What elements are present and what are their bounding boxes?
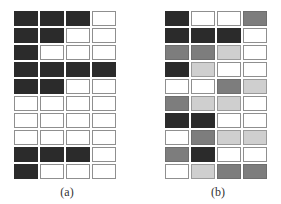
grid-cell (165, 147, 189, 162)
grid-cell (66, 164, 90, 179)
grid-cell (217, 62, 241, 77)
grid-cell (243, 147, 267, 162)
grid-cell (217, 113, 241, 128)
grid-cell (217, 28, 241, 43)
grid-cell (40, 164, 64, 179)
grid-cell (165, 164, 189, 179)
grid-cell (40, 113, 64, 128)
grid-cell (92, 96, 116, 111)
grid-cell (92, 11, 116, 26)
grid-cell (14, 130, 38, 145)
grid-cell (191, 62, 215, 77)
grid-cell (40, 79, 64, 94)
grid-cell (191, 113, 215, 128)
grid-cell (243, 79, 267, 94)
grid-cell (217, 147, 241, 162)
grid-cell (217, 130, 241, 145)
grid-cell (217, 96, 241, 111)
grid-cell (14, 96, 38, 111)
grid-cell (243, 62, 267, 77)
grid-cell (40, 28, 64, 43)
grid-cell (191, 11, 215, 26)
grid-cell (92, 164, 116, 179)
grid-cell (191, 28, 215, 43)
grid-cell (40, 96, 64, 111)
grid-cell (165, 96, 189, 111)
grid-cell (243, 96, 267, 111)
grid-cell (40, 11, 64, 26)
grid-cell (191, 79, 215, 94)
grid-cell (40, 45, 64, 60)
grid-cell (191, 45, 215, 60)
grid-cell (243, 113, 267, 128)
grid-cell (165, 130, 189, 145)
grid-cell (243, 130, 267, 145)
grid-cell (14, 28, 38, 43)
grid-cell (92, 62, 116, 77)
grid-cell (191, 96, 215, 111)
grid-cell (92, 113, 116, 128)
grid-cell (14, 113, 38, 128)
grid-cell (14, 147, 38, 162)
grid-cell (66, 28, 90, 43)
grid-cell (217, 11, 241, 26)
grid-cell (165, 113, 189, 128)
grid-cell (92, 147, 116, 162)
grid-cell (66, 113, 90, 128)
grid-cell (191, 164, 215, 179)
caption-a: (a) (47, 185, 87, 200)
grid-cell (92, 28, 116, 43)
grid-cell (66, 96, 90, 111)
grid-cell (92, 45, 116, 60)
grid-cell (217, 164, 241, 179)
grid-b (165, 11, 267, 179)
grid-cell (14, 45, 38, 60)
grid-a (14, 11, 116, 179)
grid-cell (165, 62, 189, 77)
grid-cell (165, 28, 189, 43)
grid-cell (66, 45, 90, 60)
grid-cell (14, 79, 38, 94)
grid-cell (191, 147, 215, 162)
grid-cell (243, 11, 267, 26)
grid-cell (165, 11, 189, 26)
grid-cell (165, 79, 189, 94)
grid-cell (191, 130, 215, 145)
grid-cell (217, 45, 241, 60)
grid-cell (66, 147, 90, 162)
grid-cell (243, 45, 267, 60)
grid-cell (243, 164, 267, 179)
grid-cell (92, 79, 116, 94)
grid-cell (40, 130, 64, 145)
grid-cell (66, 62, 90, 77)
grid-cell (40, 147, 64, 162)
grid-cell (14, 11, 38, 26)
grid-cell (92, 130, 116, 145)
grid-cell (14, 164, 38, 179)
grid-cell (243, 28, 267, 43)
grid-cell (165, 45, 189, 60)
grid-cell (217, 79, 241, 94)
grid-cell (40, 62, 64, 77)
grid-cell (66, 130, 90, 145)
grid-cell (14, 62, 38, 77)
caption-b: (b) (198, 185, 238, 200)
grid-cell (66, 11, 90, 26)
grid-cell (66, 79, 90, 94)
